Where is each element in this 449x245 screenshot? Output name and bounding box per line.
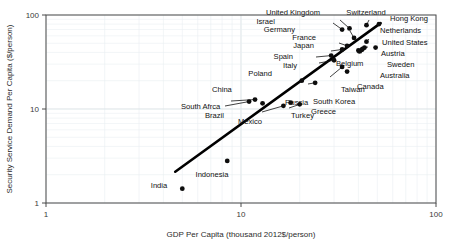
data-point[interactable] xyxy=(180,186,185,191)
x-tick-label: 100 xyxy=(429,210,443,219)
data-point-label: South Afrca xyxy=(181,102,221,111)
data-point[interactable] xyxy=(340,47,345,52)
label-leader-line xyxy=(231,100,255,101)
data-point-label: Netherlands xyxy=(380,26,421,35)
data-point[interactable] xyxy=(329,53,334,58)
data-point-label: Greece xyxy=(311,107,336,116)
chart-canvas: IndiaIndonesiaSouth AfrcaChinaBrazilMexi… xyxy=(0,0,449,245)
data-point-label: South Korea xyxy=(313,97,356,106)
data-point-label: India xyxy=(151,181,168,190)
data-point-label: Brazil xyxy=(205,111,224,120)
data-point-label: Australia xyxy=(380,71,410,80)
data-point-label: Poland xyxy=(248,69,272,78)
data-point[interactable] xyxy=(364,23,369,28)
data-point-label: Mexico xyxy=(238,117,262,126)
data-point-label: Spain xyxy=(274,52,293,61)
data-point[interactable] xyxy=(373,45,378,50)
grid-layer xyxy=(46,15,436,203)
scatter-chart: IndiaIndonesiaSouth AfrcaChinaBrazilMexi… xyxy=(0,0,449,245)
data-point[interactable] xyxy=(340,27,345,32)
data-point-label: Austria xyxy=(381,49,405,58)
data-point[interactable] xyxy=(357,49,362,54)
data-point-label: Indonesia xyxy=(196,170,230,179)
y-tick-label: 1 xyxy=(35,199,40,208)
data-point-label: Canada xyxy=(357,82,384,91)
x-tick-label: 1 xyxy=(44,210,49,219)
data-point-label: Russia xyxy=(285,98,309,107)
y-tick-label: 100 xyxy=(26,11,40,20)
label-leader-line xyxy=(225,102,249,106)
data-point[interactable] xyxy=(299,78,304,83)
data-point-label: Israel xyxy=(256,17,275,26)
data-point[interactable] xyxy=(364,39,369,44)
data-point-label: China xyxy=(212,85,233,94)
data-point-label: Italy xyxy=(283,61,297,70)
x-axis-title: GDP Per Capita (thousand 2012$/person) xyxy=(167,230,316,239)
data-point[interactable] xyxy=(260,101,265,106)
data-point[interactable] xyxy=(247,99,252,104)
data-point[interactable] xyxy=(345,69,350,74)
data-point-labels: IndiaIndonesiaSouth AfrcaChinaBrazilMexi… xyxy=(151,8,428,190)
data-point-label: Japan xyxy=(293,41,314,50)
data-point-label: United States xyxy=(382,38,428,47)
data-point[interactable] xyxy=(253,97,258,102)
data-point-label: Switzerland xyxy=(346,8,385,17)
data-point[interactable] xyxy=(352,36,357,41)
data-point-label: Germany xyxy=(264,25,295,34)
data-point-label: United Kingdom xyxy=(266,8,320,17)
x-tick-label: 10 xyxy=(237,210,246,219)
y-tick-label: 10 xyxy=(30,105,39,114)
data-point-label: Belgium xyxy=(336,59,363,68)
data-point[interactable] xyxy=(313,80,318,85)
data-point-label: France xyxy=(292,33,316,42)
y-axis-title: Security Service Demand Per Capita ($/pe… xyxy=(5,24,14,193)
data-point[interactable] xyxy=(345,43,350,48)
data-point[interactable] xyxy=(347,26,352,31)
data-point-label: Sweden xyxy=(387,60,414,69)
data-point[interactable] xyxy=(225,159,230,164)
